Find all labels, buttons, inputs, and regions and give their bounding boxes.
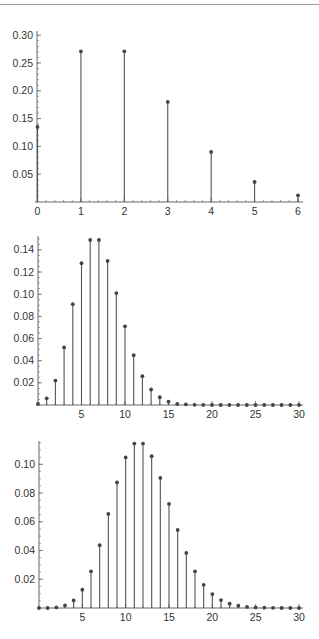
y-tick-label: 0.04: [15, 544, 36, 556]
stem-marker: [236, 604, 240, 608]
stem-marker: [71, 302, 75, 306]
y-tick-label: 0.02: [14, 376, 35, 388]
stem-marker: [46, 606, 50, 610]
stem-marker: [254, 606, 258, 610]
stem-marker: [45, 396, 49, 400]
stem-marker: [296, 193, 300, 197]
stem-marker: [201, 403, 205, 407]
x-tick-label: 2: [121, 205, 127, 217]
x-tick-label: 5: [79, 611, 85, 623]
stem-marker: [193, 403, 197, 407]
x-tick-label: 15: [163, 408, 175, 420]
x-tick-label: 10: [120, 611, 132, 623]
stem-marker: [98, 543, 102, 547]
chart-lambda-7: 0.020.040.060.080.100.120.1451015202530: [14, 236, 305, 420]
y-tick-label: 0.15: [13, 112, 34, 124]
stem-marker: [89, 569, 93, 573]
stem-marker: [219, 598, 223, 602]
y-tick-label: 0.10: [14, 288, 35, 300]
stem-marker: [106, 512, 110, 516]
stem-marker: [63, 604, 67, 608]
stem-marker: [106, 259, 110, 263]
x-tick-label: 25: [250, 611, 262, 623]
y-tick-label: 0.10: [15, 458, 36, 470]
y-tick-label: 0.04: [14, 354, 35, 366]
y-tick-label: 0.06: [14, 332, 35, 344]
stem-marker: [253, 180, 257, 184]
stem-marker: [210, 592, 214, 596]
stem-marker: [79, 49, 83, 53]
y-tick-label: 0.12: [14, 266, 35, 278]
x-tick-label: 15: [163, 611, 175, 623]
stem-marker: [254, 403, 258, 407]
x-tick-label: 6: [295, 205, 301, 217]
stem-marker: [184, 402, 188, 406]
stem-marker: [150, 454, 154, 458]
stem-marker: [158, 395, 162, 399]
stem-marker: [122, 49, 126, 53]
stem-marker: [54, 379, 58, 383]
stem-marker: [36, 402, 40, 406]
stem-marker: [219, 403, 223, 407]
stem-marker: [271, 606, 275, 610]
y-tick-label: 0.20: [13, 84, 34, 96]
x-tick-label: 20: [206, 611, 218, 623]
stem-marker: [37, 606, 41, 610]
stem-marker: [149, 388, 153, 392]
y-tick-label: 0.30: [13, 29, 34, 41]
chart-lambda-2: 0.050.100.150.200.250.300123456: [13, 29, 303, 217]
stem-marker: [167, 400, 171, 404]
stem-marker: [288, 403, 292, 407]
y-tick-label: 0.05: [13, 168, 34, 180]
stem-marker: [245, 403, 249, 407]
stem-marker: [141, 442, 145, 446]
y-tick-label: 0.08: [14, 310, 35, 322]
stem-marker: [176, 528, 180, 532]
stem-marker: [88, 238, 92, 242]
x-tick-label: 25: [250, 408, 262, 420]
stem-marker: [97, 238, 101, 242]
stem-marker: [262, 403, 266, 407]
stem-marker: [123, 324, 127, 328]
stem-marker: [297, 403, 301, 407]
y-tick-label: 0.02: [15, 573, 36, 585]
stem-marker: [228, 602, 232, 606]
stem-marker: [158, 476, 162, 480]
stem-marker: [297, 606, 301, 610]
stem-marker: [115, 481, 119, 485]
y-tick-label: 0.06: [15, 515, 36, 527]
stem-marker: [132, 353, 136, 357]
x-tick-label: 5: [79, 408, 85, 420]
y-tick-label: 0.08: [15, 487, 36, 499]
stem-marker: [271, 403, 275, 407]
stem-marker: [80, 588, 84, 592]
stem-marker: [193, 569, 197, 573]
stem-marker: [280, 606, 284, 610]
x-tick-label: 0: [35, 205, 41, 217]
y-tick-label: 0.10: [13, 140, 34, 152]
chart-lambda-12: 0.020.040.060.080.1051015202530: [15, 441, 305, 623]
y-tick-label: 0.25: [13, 57, 34, 69]
stem-marker: [280, 403, 284, 407]
y-tick-label: 0.14: [14, 243, 35, 255]
stem-marker: [175, 402, 179, 406]
x-tick-label: 5: [252, 205, 258, 217]
x-tick-label: 1: [78, 205, 84, 217]
x-tick-label: 20: [206, 408, 218, 420]
stem-marker: [288, 606, 292, 610]
stem-marker: [236, 403, 240, 407]
stem-marker: [72, 598, 76, 602]
stem-marker: [167, 502, 171, 506]
stem-marker: [202, 583, 206, 587]
stem-marker: [184, 551, 188, 555]
stem-marker: [166, 100, 170, 104]
x-tick-label: 30: [293, 408, 305, 420]
stem-marker: [262, 606, 266, 610]
stem-marker: [62, 345, 66, 349]
stem-marker: [132, 442, 136, 446]
stem-marker: [80, 261, 84, 265]
stem-marker: [245, 605, 249, 609]
stem-marker: [36, 125, 40, 129]
x-tick-label: 30: [293, 611, 305, 623]
x-tick-label: 3: [165, 205, 171, 217]
